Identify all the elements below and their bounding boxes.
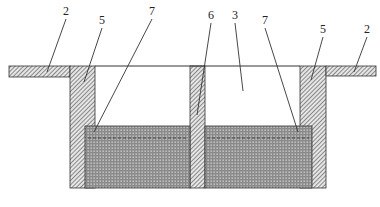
fill-left [85, 126, 190, 188]
right-marker-label: 7 [262, 13, 268, 27]
right-flange [326, 66, 376, 76]
center-wall [190, 66, 205, 188]
right-marker-label-leader [265, 28, 298, 132]
center-wall-label: 6 [208, 8, 214, 22]
right-flange-label: 2 [364, 22, 370, 36]
chamber-label-leader [235, 23, 243, 91]
right-wall-label: 5 [320, 22, 326, 36]
left-flange-label: 2 [63, 4, 69, 18]
fill-right [205, 126, 312, 188]
left-flange-label-leader [47, 19, 66, 72]
left-marker-label-leader [94, 19, 152, 132]
left-wall-label: 5 [99, 13, 105, 27]
left-flange [9, 66, 70, 77]
cross-section-diagram: 25763752 [0, 0, 380, 207]
left-marker-label: 7 [149, 4, 155, 18]
chamber-label: 3 [232, 8, 238, 22]
